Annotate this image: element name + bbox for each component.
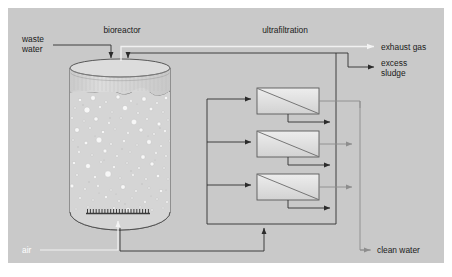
waste-water-label-line1: waste bbox=[21, 34, 44, 44]
process-diagram-canvas: bioreactor ultrafiltration waste water e… bbox=[0, 0, 452, 277]
bioreactor-tank bbox=[70, 59, 171, 232]
process-diagram: bioreactor ultrafiltration waste water e… bbox=[0, 0, 452, 277]
exhaust-gas-label: exhaust gas bbox=[381, 42, 426, 52]
membrane-module-2 bbox=[257, 131, 319, 157]
tank-liquid bbox=[70, 92, 170, 232]
membrane-module-3 bbox=[257, 174, 319, 200]
excess-sludge-label-line1: excess bbox=[381, 58, 407, 68]
ultrafiltration-label: ultrafiltration bbox=[262, 25, 308, 35]
clean-water-label: clean water bbox=[377, 245, 420, 255]
waste-water-label-line2: water bbox=[21, 44, 43, 54]
bioreactor-label: bioreactor bbox=[103, 25, 140, 35]
membrane-module-1 bbox=[257, 88, 319, 114]
excess-sludge-label-line2: sludge bbox=[381, 68, 406, 78]
air-label: air bbox=[22, 245, 32, 255]
